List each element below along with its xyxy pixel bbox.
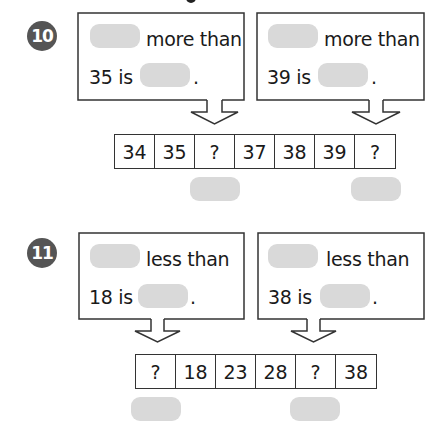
sequence-cell: 18 (176, 355, 216, 388)
box-text-line1: less than (326, 248, 409, 270)
answer-blank[interactable] (318, 63, 368, 87)
sequence-cell: 35 (155, 135, 195, 168)
box-text-line2: 18 is (89, 286, 133, 308)
period: . (372, 286, 378, 308)
number-sequence-strip: 34 35 ? 37 38 39 ? (114, 134, 396, 169)
box-text-line2: 38 is (268, 286, 312, 308)
answer-blank[interactable] (138, 284, 188, 308)
answer-blank[interactable] (190, 177, 240, 201)
answer-blank[interactable] (131, 397, 181, 421)
sequence-cell-unknown: ? (136, 355, 176, 388)
problem-number-badge: 10 (27, 21, 57, 51)
sequence-cell: 37 (235, 135, 275, 168)
box-text-line1: less than (146, 248, 229, 270)
box-text-line2: 39 is (267, 66, 311, 88)
period: . (193, 66, 199, 88)
period: . (190, 286, 196, 308)
sequence-cell-unknown: ? (195, 135, 235, 168)
sequence-cell: 34 (115, 135, 155, 168)
sequence-cell: 38 (275, 135, 315, 168)
answer-blank[interactable] (290, 397, 340, 421)
arrow-down-icon (291, 319, 336, 342)
sequence-cell: 38 (336, 355, 376, 388)
sequence-cell: 28 (256, 355, 296, 388)
sequence-cell: 23 (216, 355, 256, 388)
answer-blank[interactable] (351, 177, 401, 201)
answer-blank[interactable] (268, 244, 318, 268)
sequence-cell-unknown: ? (355, 135, 395, 168)
box-text-line1: more than (324, 28, 420, 50)
answer-blank[interactable] (90, 24, 140, 48)
problem-number-badge: 11 (27, 238, 57, 268)
answer-blank[interactable] (140, 63, 190, 87)
box-text-line2: 35 is (89, 66, 133, 88)
number-sequence-strip: ? 18 23 28 ? 38 (135, 354, 377, 389)
answer-blank[interactable] (320, 284, 370, 308)
sequence-cell-unknown: ? (296, 355, 336, 388)
box-text-line1: more than (146, 28, 242, 50)
period: . (371, 66, 377, 88)
arrow-down-icon (135, 319, 180, 342)
arrow-down-icon (352, 100, 400, 124)
arrow-down-icon (191, 100, 238, 124)
answer-blank[interactable] (90, 244, 140, 268)
answer-blank[interactable] (268, 24, 318, 48)
sequence-cell: 39 (315, 135, 355, 168)
